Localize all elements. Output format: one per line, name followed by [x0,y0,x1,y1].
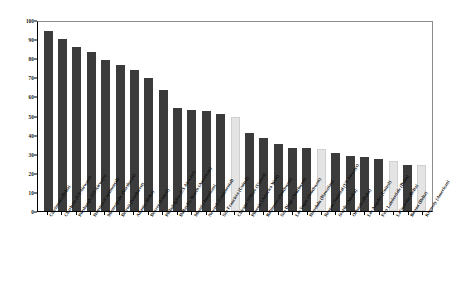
x-axis-label-slot: Minneapolis (Northwest) [98,215,112,302]
x-axis-label-slot: Reagan National (US Airways) [314,215,328,302]
x-axis-label-slot: Las Vegas (Southwest) [285,215,299,302]
bar-slot [372,22,386,211]
bar-slot [156,22,170,211]
x-axis-label-slot: Boston (Delta) [401,215,415,302]
x-axis-label-slot: Orlando (Delta) [343,215,357,302]
x-axis-label-slot: LaGuardia (Delta) [387,215,401,302]
x-axis-label-slot: Los Angeles (United) [358,215,372,302]
x-axis-label-slot: Philadelphia (US Airways) [156,215,170,302]
x-axis-label-slot: Chicago O'Hare (United) [228,215,242,302]
x-axis-label-slot: Seattle (Alaska) [329,215,343,302]
x-axis-label-slot: Honolulu (Hawaiian) [300,215,314,302]
y-axis: 0102030405060708090100 [0,21,37,212]
x-axis-label-slot: Kennedy (American) [415,215,429,302]
x-axis-label-slot: Detroit (Northwest) [112,215,126,302]
x-axis-label-slot: Atlanta (Delta) [127,215,141,302]
bar-slot [357,22,371,211]
x-axis-label-slot: Miami (American) [184,215,198,302]
x-axis-label-slot: Charlotte (US Airways) [54,215,68,302]
x-axis-label-slot: Phoenix (America West) [242,215,256,302]
x-axis-label-slot: Pittsburgh (US Airways) [69,215,83,302]
bar-slot [415,22,429,211]
x-axis-label-slot: San Francisco (United) [213,215,227,302]
x-axis-label-slot: Fort Lauderdale (Delta) [372,215,386,302]
bar[interactable] [44,31,53,211]
bar-slot [55,22,69,211]
x-axis-label-slot: Denver (United) [141,215,155,302]
x-axis-label-slot: Houston (Continental) [83,215,97,302]
bar-chart: 0102030405060708090100 Cincinnati (Delta… [0,0,450,302]
y-axis-tick-label: 100 [26,18,34,24]
x-axis-labels: Cincinnati (Delta)Charlotte (US Airways)… [37,215,433,302]
x-axis-label-slot: Cincinnati (Delta) [40,215,54,302]
x-axis-label-slot: Dallas/Ft. Worth (American) [170,215,184,302]
bar-slot [170,22,184,211]
x-axis-label-slot: San Diego (Southwest) [271,215,285,302]
bar-slot [41,22,55,211]
x-axis-label-slot: Newark (Continental) [199,215,213,302]
x-axis-label-slot: Baltimore (Southwest) [257,215,271,302]
